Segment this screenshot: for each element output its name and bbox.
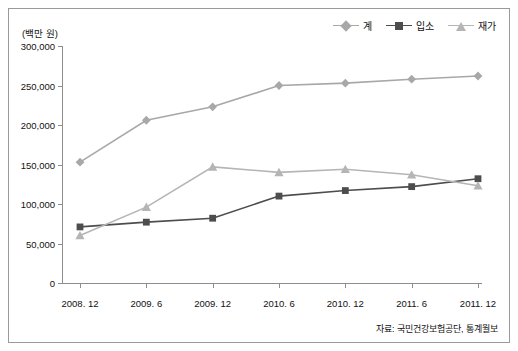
legend-item: 계 xyxy=(333,18,372,33)
legend-label: 입소 xyxy=(416,18,434,33)
data-point-marker xyxy=(475,175,482,182)
x-tick-label: 2009. 6 xyxy=(130,298,162,309)
y-tick-label: 0 xyxy=(50,278,55,289)
data-point-marker xyxy=(208,102,217,111)
data-point-marker xyxy=(275,81,284,90)
data-point-marker xyxy=(77,224,84,231)
y-tick-label: 300,000 xyxy=(21,41,55,52)
x-tick-label: 2009. 12 xyxy=(194,298,231,309)
x-tick-mark xyxy=(478,284,479,288)
data-point-marker xyxy=(276,193,283,200)
data-point-marker xyxy=(407,75,416,84)
chart-legend: 계입소재가 xyxy=(333,18,496,33)
data-point-marker xyxy=(75,231,84,239)
y-tick-mark xyxy=(58,204,62,205)
x-tick-mark xyxy=(213,284,214,288)
x-tick-label: 2010. 6 xyxy=(263,298,295,309)
y-tick-label: 50,000 xyxy=(26,238,55,249)
x-tick-mark xyxy=(279,284,280,288)
y-tick-label: 100,000 xyxy=(21,199,55,210)
x-tick-mark xyxy=(412,284,413,288)
legend-label: 재가 xyxy=(478,18,496,33)
source-note: 자료: 국민건강보험공단, 통계월보 xyxy=(376,322,498,335)
x-tick-label: 2008. 12 xyxy=(62,298,99,309)
x-tick-mark xyxy=(146,284,147,288)
series-line xyxy=(80,179,478,227)
data-point-marker xyxy=(142,203,151,211)
legend-label: 계 xyxy=(363,18,372,33)
x-tick-label: 2011. 12 xyxy=(460,298,496,309)
data-point-marker xyxy=(408,183,415,190)
series-layer xyxy=(62,46,482,284)
y-tick-mark xyxy=(58,46,62,47)
x-tick-label: 2010. 12 xyxy=(327,298,364,309)
x-tick-label: 2011. 6 xyxy=(396,298,427,309)
y-tick-mark xyxy=(58,165,62,166)
legend-swatch-diamond-icon xyxy=(333,21,359,31)
legend-item: 입소 xyxy=(386,18,434,33)
y-tick-mark xyxy=(58,86,62,87)
legend-swatch-triangle-icon xyxy=(448,21,474,31)
x-tick-mark xyxy=(80,284,81,288)
data-point-marker xyxy=(76,158,85,167)
y-tick-label: 200,000 xyxy=(21,120,55,131)
data-point-marker xyxy=(341,79,350,88)
plot-area: 050,000100,000150,000200,000250,000300,0… xyxy=(62,46,482,284)
y-tick-mark xyxy=(58,283,62,284)
data-point-marker xyxy=(209,215,216,222)
y-tick-mark xyxy=(58,125,62,126)
data-point-marker xyxy=(142,116,151,125)
y-tick-label: 150,000 xyxy=(21,159,55,170)
x-tick-mark xyxy=(345,284,346,288)
chart-container: (백만 원) 계입소재가 050,000100,000150,000200,00… xyxy=(0,0,518,351)
y-tick-label: 250,000 xyxy=(21,80,55,91)
series-line xyxy=(80,167,478,236)
legend-item: 재가 xyxy=(448,18,496,33)
legend-swatch-square-icon xyxy=(386,21,412,31)
y-tick-mark xyxy=(58,244,62,245)
data-point-marker xyxy=(474,72,483,81)
data-point-marker xyxy=(143,219,150,226)
y-axis-title: (백만 원) xyxy=(22,26,58,40)
data-point-marker xyxy=(342,187,349,194)
